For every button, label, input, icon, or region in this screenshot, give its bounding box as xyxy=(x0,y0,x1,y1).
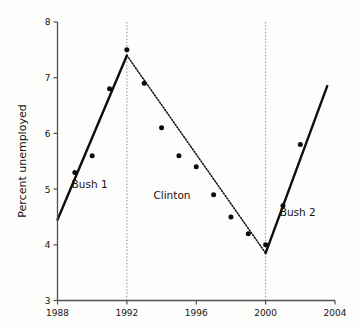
data-point xyxy=(211,192,216,197)
data-point xyxy=(72,170,77,175)
axis-spines xyxy=(58,22,336,301)
x-tick-label: 2004 xyxy=(324,308,347,318)
data-point xyxy=(90,153,95,158)
y-tick-label: 3 xyxy=(45,296,51,306)
data-point xyxy=(159,125,164,130)
trend-bush-2-trend xyxy=(266,86,328,253)
data-point xyxy=(298,142,303,147)
trend-clinton-trend xyxy=(127,55,266,253)
y-axis-title: Percent unemployed xyxy=(16,104,29,217)
y-tick-label: 5 xyxy=(45,185,51,195)
data-point xyxy=(124,47,129,52)
data-point xyxy=(263,242,268,247)
y-tick-label: 8 xyxy=(45,17,51,27)
data-point xyxy=(246,231,251,236)
era-label-clinton: Clinton xyxy=(153,189,190,201)
trend-bush-1-trend xyxy=(58,55,127,219)
x-axis-ticks: 19881992199620002004 xyxy=(46,301,347,318)
data-point xyxy=(142,81,147,86)
x-tick-label: 1992 xyxy=(115,308,138,318)
plot-area xyxy=(58,22,328,301)
y-tick-label: 7 xyxy=(45,73,51,83)
y-tick-label: 6 xyxy=(45,129,51,139)
era-divider-lines xyxy=(127,22,266,301)
era-labels: Bush 1ClintonBush 2 xyxy=(72,178,316,218)
era-label-bush-1: Bush 1 xyxy=(72,178,108,190)
unemployment-chart: 345678 19881992199620002004 Percent unem… xyxy=(0,0,362,331)
data-points xyxy=(72,47,302,247)
trend-lines xyxy=(58,55,328,253)
data-point xyxy=(176,153,181,158)
x-tick-label: 1988 xyxy=(46,308,69,318)
era-label-bush-2: Bush 2 xyxy=(280,206,316,218)
data-point xyxy=(228,214,233,219)
data-point xyxy=(107,86,112,91)
x-tick-label: 2000 xyxy=(254,308,277,318)
data-point xyxy=(194,164,199,169)
y-tick-label: 4 xyxy=(45,240,51,250)
y-axis-ticks: 345678 xyxy=(45,17,58,306)
x-tick-label: 1996 xyxy=(185,308,208,318)
chart-canvas: 345678 19881992199620002004 Percent unem… xyxy=(0,0,362,331)
